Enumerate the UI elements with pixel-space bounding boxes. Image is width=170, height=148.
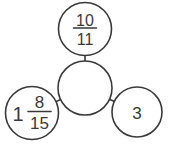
bottom-left-fraction-numerator: 8 [35,93,44,112]
bottom-right-value: 3 [132,104,141,123]
top-fraction-denominator: 11 [77,31,94,48]
center-circle [58,61,112,115]
diagram-canvas: 10 11 1 8 15 3 [0,0,170,148]
top-fraction-numerator: 10 [76,12,94,29]
top-circle [59,3,112,56]
bottom-left-fraction-denominator: 15 [30,114,49,133]
bottom-left-whole-number: 1 [12,103,23,125]
number-bond-diagram: 10 11 1 8 15 3 [0,0,170,148]
